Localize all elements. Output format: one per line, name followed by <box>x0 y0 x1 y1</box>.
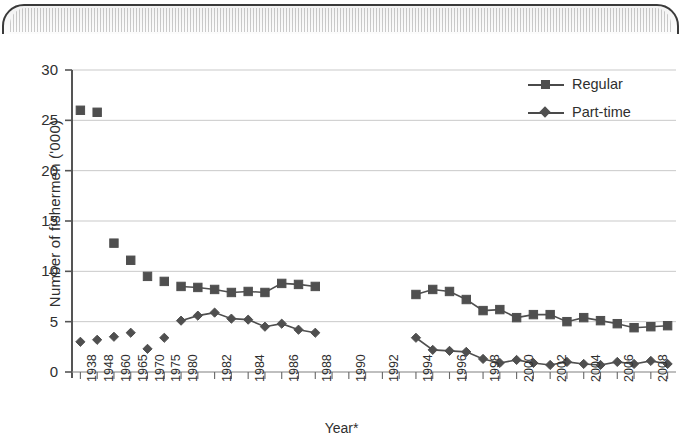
x-tick-label: 1990 <box>355 354 368 382</box>
x-tick-label: 2004 <box>590 354 603 382</box>
legend-label: Regular <box>572 76 623 92</box>
legend-label: Part-time <box>572 104 631 120</box>
x-tick-label: 2008 <box>657 354 670 382</box>
y-tick-label: 30 <box>28 62 58 77</box>
y-tick-label: 15 <box>28 213 58 228</box>
y-tick-label: 0 <box>28 364 58 379</box>
x-tick-label: 1986 <box>288 354 301 382</box>
x-tick-label: 1965 <box>137 354 150 382</box>
x-tick-label: 1960 <box>120 354 133 382</box>
x-tick-label: 1996 <box>456 354 469 382</box>
x-tick-label: 1998 <box>489 354 502 382</box>
x-tick-label: 1994 <box>422 354 435 382</box>
x-tick-label: 1938 <box>86 354 99 382</box>
x-tick-label: 1992 <box>388 354 401 382</box>
x-tick-label: 2000 <box>523 354 536 382</box>
x-tick-label: 2006 <box>623 354 636 382</box>
y-tick-label: 25 <box>28 112 58 127</box>
x-tick-label: 1970 <box>154 354 167 382</box>
x-tick-label: 1984 <box>254 354 267 382</box>
x-tick-label: 1988 <box>321 354 334 382</box>
x-tick-label: 1975 <box>170 354 183 382</box>
y-tick-label: 20 <box>28 163 58 178</box>
x-tick-label: 2002 <box>556 354 569 382</box>
x-tick-label: 1980 <box>187 354 200 382</box>
y-tick-label: 10 <box>28 263 58 278</box>
fishermen-line-chart: Number of fishermen ('000) Year* 0510152… <box>0 0 683 436</box>
y-tick-label: 5 <box>28 314 58 329</box>
x-axis-title: Year* <box>0 420 683 436</box>
square-marker-icon <box>541 80 550 89</box>
x-tick-label: 1948 <box>103 354 116 382</box>
x-tick-label: 1982 <box>221 354 234 382</box>
